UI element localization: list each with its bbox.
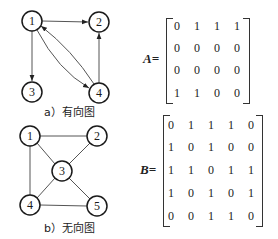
matrix-b-cell: 0 bbox=[205, 163, 217, 178]
matrix-a-cell: 0 bbox=[171, 19, 183, 34]
edge-4-to-1 bbox=[41, 26, 94, 84]
matrix-b-cell: 0 bbox=[185, 140, 197, 155]
matrix-b-cell: 1 bbox=[165, 163, 177, 178]
matrix-a-cell: 0 bbox=[171, 41, 183, 56]
matrix-a-cell: 0 bbox=[231, 86, 243, 101]
matrix-a-cell: 0 bbox=[191, 41, 203, 56]
matrix-a-cell: 0 bbox=[211, 41, 223, 56]
matrix-b-cell: 1 bbox=[205, 209, 217, 224]
matrix-b-cell: 1 bbox=[225, 118, 237, 133]
matrix-a-cell: 1 bbox=[211, 19, 223, 34]
svg-text:1: 1 bbox=[29, 14, 35, 28]
matrix-b-cell: 0 bbox=[225, 186, 237, 201]
undirected-graph-node-3: 3 bbox=[52, 161, 72, 181]
matrix-a-cell: 1 bbox=[171, 86, 183, 101]
matrix-b-cell: 0 bbox=[165, 118, 177, 133]
svg-text:5: 5 bbox=[94, 199, 100, 213]
matrix-b-cell: 1 bbox=[245, 186, 257, 201]
matrix-b-cell: 0 bbox=[185, 209, 197, 224]
edge-1-to-2 bbox=[42, 21, 88, 22]
matrix-a-cell: 0 bbox=[231, 41, 243, 56]
matrix-a-cell: 1 bbox=[191, 86, 203, 101]
matrix-b-cell: 1 bbox=[185, 118, 197, 133]
matrix-b-cell: 1 bbox=[165, 186, 177, 201]
matrix-b-cell: 1 bbox=[165, 140, 177, 155]
directed-graph-node-3: 3 bbox=[22, 82, 42, 102]
matrix-b-cell: 0 bbox=[245, 209, 257, 224]
svg-text:2: 2 bbox=[94, 129, 100, 143]
undirected-graph-node-1: 1 bbox=[20, 126, 40, 146]
edge-4-5 bbox=[40, 205, 87, 206]
svg-text:4: 4 bbox=[96, 86, 102, 100]
undirected-graph-node-2: 2 bbox=[87, 126, 107, 146]
matrix-b-label: B= bbox=[140, 162, 156, 178]
edge-1-3 bbox=[37, 143, 55, 164]
matrix-a-cell: 0 bbox=[211, 63, 223, 78]
matrix-b-cell: 1 bbox=[205, 186, 217, 201]
matrix-b-cell: 1 bbox=[205, 118, 217, 133]
edge-1-to-4 bbox=[37, 30, 89, 88]
svg-text:4: 4 bbox=[27, 198, 33, 212]
matrix-b-cell: 1 bbox=[205, 140, 217, 155]
matrix-b-cell: 0 bbox=[165, 209, 177, 224]
directed-graph-caption: a）有向图 bbox=[44, 103, 95, 119]
matrix-a-cell: 0 bbox=[231, 63, 243, 78]
matrix-b-cell: 1 bbox=[245, 163, 257, 178]
matrix-b-right-bracket bbox=[256, 115, 263, 227]
svg-text:3: 3 bbox=[29, 85, 35, 99]
svg-text:2: 2 bbox=[96, 15, 102, 29]
matrix-b-cell: 0 bbox=[245, 140, 257, 155]
matrix-a-cell: 1 bbox=[231, 19, 243, 34]
directed-graph-node-4: 4 bbox=[89, 83, 109, 103]
matrix-a-right-bracket bbox=[243, 18, 250, 104]
directed-graph-node-1: 1 bbox=[22, 11, 42, 31]
matrix-b-cell: 0 bbox=[245, 118, 257, 133]
svg-text:1: 1 bbox=[27, 129, 33, 143]
edge-2-3 bbox=[69, 143, 90, 164]
matrix-b-cell: 1 bbox=[225, 163, 237, 178]
matrix-b-cell: 1 bbox=[225, 209, 237, 224]
undirected-graph-node-5: 5 bbox=[87, 196, 107, 216]
svg-text:3: 3 bbox=[59, 164, 65, 178]
matrix-b-cell: 0 bbox=[185, 186, 197, 201]
directed-graph-edges bbox=[32, 21, 99, 88]
matrix-a-cell: 0 bbox=[191, 63, 203, 78]
undirected-graph-node-4: 4 bbox=[20, 195, 40, 215]
edge-3-5 bbox=[69, 178, 90, 199]
edge-3-4 bbox=[37, 178, 55, 198]
matrix-b-cell: 0 bbox=[225, 140, 237, 155]
undirected-graph-caption: b）无向图 bbox=[44, 219, 95, 235]
directed-graph-node-2: 2 bbox=[89, 12, 109, 32]
matrix-a-cell: 1 bbox=[191, 19, 203, 34]
matrix-a-label: A= bbox=[143, 51, 159, 67]
matrix-b-cell: 1 bbox=[185, 163, 197, 178]
matrix-a-cell: 0 bbox=[171, 63, 183, 78]
matrix-a-cell: 0 bbox=[211, 86, 223, 101]
